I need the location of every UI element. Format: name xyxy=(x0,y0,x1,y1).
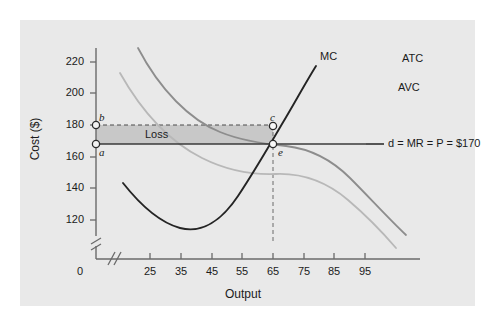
point-e-marker xyxy=(269,140,276,147)
point-e-label: e xyxy=(278,147,283,158)
x-tick-label-25: 25 xyxy=(138,266,162,277)
x-tick-label-45: 45 xyxy=(200,266,224,277)
x-axis-title: Output xyxy=(225,288,261,300)
y-tick-label-160: 160 xyxy=(54,151,84,162)
x-tick-label-95: 95 xyxy=(353,266,377,277)
y-tick-label-120: 120 xyxy=(54,214,84,225)
y-tick-label-180: 180 xyxy=(54,119,84,130)
point-c-label: c xyxy=(270,112,275,123)
atc-curve-label: ATC xyxy=(402,53,423,64)
figure-container: 220 200 180 160 140 120 25 35 45 55 65 7… xyxy=(0,0,495,326)
x-tick-label-35: 35 xyxy=(169,266,193,277)
loss-area-label: Loss xyxy=(145,129,168,140)
y-tick-label-220: 220 xyxy=(54,56,84,67)
point-b-label: b xyxy=(99,112,105,123)
mc-curve-label: MC xyxy=(320,51,337,62)
y-axis-title: Cost ($) xyxy=(28,118,42,161)
loss-area-rect xyxy=(96,125,273,144)
x-tick-label-65: 65 xyxy=(261,266,285,277)
chart-panel: 220 200 180 160 140 120 25 35 45 55 65 7… xyxy=(20,20,475,306)
point-a-label: a xyxy=(99,147,105,158)
y-tick-label-200: 200 xyxy=(54,87,84,98)
x-tick-label-75: 75 xyxy=(292,266,316,277)
x-tick-label-85: 85 xyxy=(322,266,346,277)
y-tick-label-140: 140 xyxy=(54,182,84,193)
x-axis-zero-label: 0 xyxy=(68,266,92,277)
price-line-label: d = MR = P = $170 xyxy=(388,138,480,149)
x-tick-label-55: 55 xyxy=(230,266,254,277)
avc-curve-label: AVC xyxy=(398,82,420,93)
point-c-marker xyxy=(269,122,276,129)
